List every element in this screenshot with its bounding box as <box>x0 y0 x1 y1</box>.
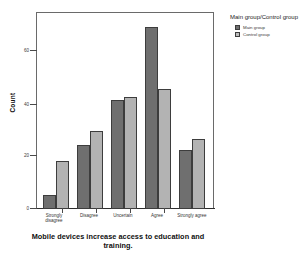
y-tick-label-20: 20 <box>14 153 29 158</box>
bar-main-disagree <box>77 145 90 209</box>
bar-main-strongly-agree <box>179 150 192 209</box>
legend-swatch-main-group <box>235 25 240 30</box>
legend-items: Main group Control group <box>226 25 306 37</box>
x-category-label-strongly-agree: Strongly agree <box>174 213 210 218</box>
bar-control-disagree <box>90 131 103 209</box>
legend-label-main-group: Main group <box>243 25 265 30</box>
x-category-label-agree: Agree <box>141 213 173 218</box>
bar-control-strongly-agree <box>192 139 205 209</box>
y-tick-label-40: 40 <box>14 102 29 107</box>
legend: Main group/Control group Main group Cont… <box>226 14 306 39</box>
bar-chart: Count 60 40 20 0 Strongly disagree Disag… <box>0 0 308 262</box>
legend-item-control-group: Control group <box>235 32 306 37</box>
bar-main-strongly-disagree <box>43 195 56 209</box>
legend-label-control-group: Control group <box>243 32 270 37</box>
bar-main-agree <box>145 27 158 209</box>
y-tick-label-0: 0 <box>14 206 29 211</box>
x-category-label-uncertain: Uncertain <box>107 213 139 218</box>
y-tick-mark-60 <box>30 50 37 51</box>
legend-item-main-group: Main group <box>235 25 306 30</box>
y-tick-label-60: 60 <box>14 48 29 53</box>
bar-control-agree <box>158 89 171 209</box>
x-axis-title: Mobile devices increase access to educat… <box>18 232 218 251</box>
y-tick-mark-20 <box>30 155 37 156</box>
plot-area <box>37 13 213 209</box>
legend-swatch-control-group <box>235 32 240 37</box>
bar-main-uncertain <box>111 100 124 209</box>
y-tick-mark-0 <box>30 208 37 209</box>
y-tick-mark-40 <box>30 104 37 105</box>
bar-control-strongly-disagree <box>56 161 69 209</box>
legend-title: Main group/Control group <box>226 14 302 22</box>
x-category-label-strongly-disagree: Strongly disagree <box>38 213 70 223</box>
bar-control-uncertain <box>124 97 137 209</box>
x-category-label-disagree: Disagree <box>73 213 105 218</box>
